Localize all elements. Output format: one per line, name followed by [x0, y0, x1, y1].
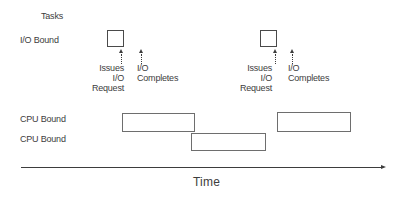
- io-completes-label-1: I/O Completes: [137, 63, 178, 83]
- io-bound-row-label: I/O Bound: [20, 35, 59, 45]
- time-axis-label: Time: [193, 175, 220, 189]
- arrowhead-icon: [273, 49, 277, 53]
- arrowhead-icon: [119, 49, 123, 53]
- dotted-line: [275, 54, 276, 64]
- arrowhead-icon: [139, 49, 143, 53]
- time-axis-line: [21, 167, 382, 168]
- right-arrow-icon: [381, 165, 386, 169]
- dotted-up-arrow-icon: [289, 49, 295, 64]
- io-task-box-2: [260, 30, 277, 47]
- cpu-task-bar-2: [277, 112, 351, 132]
- io-completes-label-2: I/O Completes: [288, 63, 329, 83]
- diagram-title: Tasks: [41, 11, 63, 21]
- cpu-task-bar-3: [191, 133, 266, 151]
- cpu-bound-row1-label: CPU Bound: [20, 114, 66, 124]
- dotted-up-arrow-icon: [272, 49, 278, 64]
- dotted-up-arrow-icon: [138, 49, 144, 64]
- io-task-box-1: [107, 30, 124, 47]
- arrowhead-icon: [290, 49, 294, 53]
- cpu-bound-row2-label: CPU Bound: [20, 134, 66, 144]
- dotted-line: [292, 54, 293, 64]
- dotted-up-arrow-icon: [118, 49, 124, 64]
- cpu-task-bar-1: [122, 113, 195, 132]
- issues-io-request-label-2: Issues I/O Request: [240, 63, 272, 93]
- dotted-line: [141, 54, 142, 64]
- task-timing-diagram: Tasks I/O Bound CPU Bound CPU Bound Issu…: [0, 0, 404, 198]
- dotted-line: [121, 54, 122, 64]
- issues-io-request-label-1: Issues I/O Request: [92, 63, 124, 93]
